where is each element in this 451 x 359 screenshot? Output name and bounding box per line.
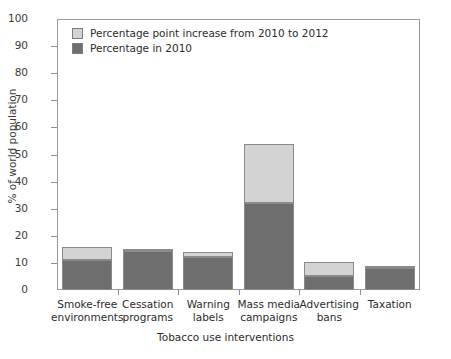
bar-segment-percentage-2010[interactable]: [183, 257, 233, 290]
bar-chart: % of world population 010203040506070809…: [0, 0, 451, 359]
bar-segment-percentage-2010[interactable]: [304, 276, 354, 290]
legend-swatch-icon: [72, 43, 83, 54]
bar-segment-percentage-2010[interactable]: [244, 203, 294, 290]
legend-item[interactable]: Percentage in 2010: [72, 42, 329, 54]
y-tick-label: 0: [0, 284, 28, 294]
y-tick-label: 20: [0, 230, 28, 240]
bar-segment-percentage-2010[interactable]: [62, 260, 112, 290]
bar-group[interactable]: [183, 252, 233, 290]
bar-segment-increase-2010-2012[interactable]: [62, 247, 112, 261]
bar-segment-increase-2010-2012[interactable]: [183, 252, 233, 257]
bar-group[interactable]: [365, 267, 415, 290]
bar-group[interactable]: [123, 249, 173, 290]
bar-segment-percentage-2010[interactable]: [123, 251, 173, 290]
legend-swatch-icon: [72, 28, 83, 39]
legend-item[interactable]: Percentage point increase from 2010 to 2…: [72, 27, 329, 39]
bar-group[interactable]: [244, 144, 294, 290]
y-tick-label: 80: [0, 67, 28, 77]
legend-label: Percentage point increase from 2010 to 2…: [90, 27, 329, 39]
x-tick-mark: [299, 290, 300, 295]
y-tick-label: 50: [0, 149, 28, 159]
bar-segment-increase-2010-2012[interactable]: [244, 144, 294, 204]
x-tick-mark: [178, 290, 179, 295]
x-category-label-line: bans: [293, 311, 366, 324]
y-tick-label: 10: [0, 257, 28, 267]
x-category-label: Taxation: [354, 298, 427, 311]
legend: Percentage point increase from 2010 to 2…: [72, 27, 329, 57]
x-category-label-line: Taxation: [354, 298, 427, 311]
x-tick-mark: [360, 290, 361, 295]
y-tick-label: 30: [0, 203, 28, 213]
x-tick-mark: [118, 290, 119, 295]
legend-label: Percentage in 2010: [90, 42, 192, 54]
y-tick-label: 40: [0, 176, 28, 186]
y-tick-label: 70: [0, 94, 28, 104]
bar-group[interactable]: [62, 247, 112, 290]
bar-segment-increase-2010-2012[interactable]: [365, 266, 415, 268]
x-axis-label: Tobacco use interventions: [0, 331, 451, 343]
bar-group[interactable]: [304, 262, 354, 290]
bar-segment-increase-2010-2012[interactable]: [304, 262, 354, 277]
x-tick-mark: [239, 290, 240, 295]
y-tick-label: 90: [0, 40, 28, 50]
y-tick-label: 60: [0, 121, 28, 131]
bar-segment-percentage-2010[interactable]: [365, 268, 415, 290]
y-tick-label: 100: [0, 13, 28, 23]
bars-layer: [57, 19, 420, 290]
bar-segment-increase-2010-2012[interactable]: [123, 249, 173, 251]
